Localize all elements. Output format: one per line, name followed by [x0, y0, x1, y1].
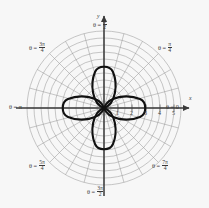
angle-fraction-7: 7π4: [162, 160, 169, 173]
angle-denominator-7: 4: [162, 165, 169, 172]
angle-fraction-6: 3π2: [97, 186, 104, 199]
angle-prefix-7: θ =: [152, 162, 162, 169]
x-tick-label-1: 1: [116, 110, 119, 116]
angle-prefix-3: θ =: [29, 44, 39, 51]
angle-label-theta-0: θ = 0: [166, 104, 179, 110]
x-tick-label-4: 4: [158, 110, 161, 116]
angle-denominator-1: 4: [168, 47, 172, 54]
angle-label-theta-7pi-4: θ = 7π4: [152, 160, 168, 173]
angle-label-theta-5pi-4: θ = 5π4: [29, 160, 45, 173]
angle-denominator-5: 4: [39, 165, 46, 172]
angle-label-theta-3pi-4: θ = 3π4: [29, 42, 45, 55]
angle-fraction-5: 5π4: [39, 160, 46, 173]
angle-denominator-3: 4: [39, 47, 46, 54]
angle-label-theta-pi: θ = π: [9, 104, 22, 110]
x-tick-label-2: 2: [130, 110, 133, 116]
angle-value-4: π: [19, 103, 22, 110]
x-tick-label-3: 3: [144, 110, 147, 116]
angle-value-0: 0: [176, 103, 179, 110]
angle-label-theta-3pi-2: θ = 3π2: [87, 186, 103, 199]
angle-prefix-4: θ =: [9, 103, 19, 110]
angle-prefix-5: θ =: [29, 162, 39, 169]
angle-fraction-1: π4: [168, 42, 172, 55]
angle-prefix-1: θ =: [158, 44, 168, 51]
angle-label-theta-pi-2: θ = π2: [93, 19, 107, 32]
polar-plot-figure: x y 1 2 3 4 5 θ = 0 θ = π4 θ = π2 θ = 3π…: [0, 0, 209, 208]
angle-denominator-2: 2: [103, 24, 107, 31]
angle-label-theta-pi-4: θ = π4: [158, 42, 172, 55]
angle-fraction-3: 3π4: [39, 42, 46, 55]
angle-prefix-0: θ =: [166, 103, 176, 110]
angle-prefix-2: θ =: [93, 21, 103, 28]
x-tick-label-5: 5: [172, 110, 175, 116]
angle-fraction-2: π2: [103, 19, 107, 32]
angle-denominator-6: 2: [97, 191, 104, 198]
angle-prefix-6: θ =: [87, 188, 97, 195]
x-axis-label: x: [189, 95, 192, 101]
